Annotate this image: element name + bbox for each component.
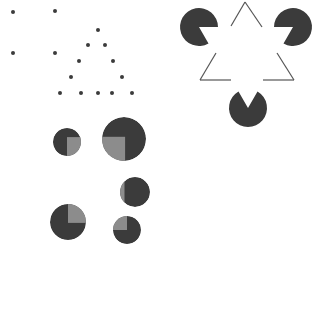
dot xyxy=(53,9,57,13)
background xyxy=(0,0,330,332)
dot xyxy=(11,10,15,14)
dot xyxy=(79,91,83,95)
dot xyxy=(103,43,107,47)
dot xyxy=(110,91,114,95)
dot xyxy=(11,51,15,55)
quadrant-disk xyxy=(50,204,86,240)
dot xyxy=(58,91,62,95)
dot xyxy=(111,59,115,63)
quadrant-disk xyxy=(113,216,141,244)
quadrant-disk xyxy=(120,177,150,207)
dot xyxy=(130,91,134,95)
dot xyxy=(96,28,100,32)
illusion-figure xyxy=(0,0,330,332)
dot xyxy=(86,43,90,47)
dot xyxy=(96,91,100,95)
dot xyxy=(53,51,57,55)
dot xyxy=(77,59,81,63)
dot xyxy=(120,75,124,79)
dot xyxy=(69,75,73,79)
